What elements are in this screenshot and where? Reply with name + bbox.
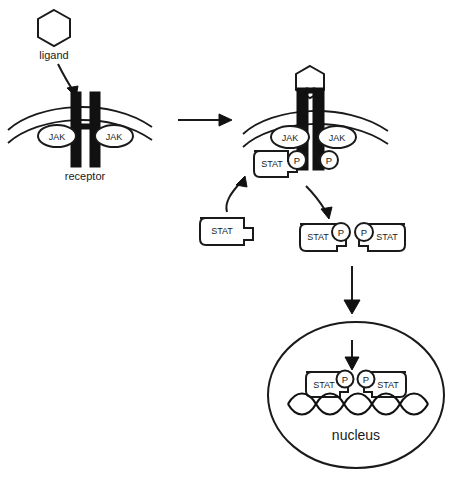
- phosphate-label: P: [326, 155, 332, 166]
- phosphate-dimer-right: P: [355, 223, 373, 241]
- ligand-hexagon: [38, 10, 70, 46]
- phosphate-nuclear-right: P: [358, 371, 375, 388]
- jak-right-1: JAK: [271, 126, 309, 148]
- phosphate-label: P: [361, 227, 367, 238]
- stat-label: STAT: [313, 380, 335, 390]
- jak-left-2: JAK: [95, 125, 133, 147]
- phosphate-dimer-left: P: [332, 223, 350, 241]
- jak-right-2: JAK: [318, 126, 356, 148]
- stat-label: STAT: [261, 159, 283, 169]
- phosphate-receptor-right: P: [320, 151, 338, 169]
- stat-label: STAT: [376, 232, 398, 242]
- nuclear-translocation-arrow: [344, 266, 360, 314]
- jak-label: JAK: [282, 133, 299, 143]
- stat-dimer: STAT STAT P P: [300, 223, 405, 251]
- phosphate-label: P: [363, 374, 369, 385]
- receptor-label: receptor: [65, 170, 106, 182]
- transition-arrow: [178, 114, 232, 126]
- stat-label: STAT: [307, 232, 329, 242]
- phosphate-label: P: [338, 227, 344, 238]
- jak-label: JAK: [106, 132, 123, 142]
- stat-recruitment-arrow: [226, 176, 247, 212]
- stat-label: STAT: [211, 226, 233, 236]
- free-stat: STAT: [200, 218, 253, 245]
- phosphate-label: P: [294, 155, 300, 166]
- jak-label: JAK: [329, 133, 346, 143]
- nucleus-label: nucleus: [332, 427, 380, 443]
- phosphate-receptor-left: P: [288, 151, 306, 169]
- stat-label: STAT: [377, 380, 399, 390]
- jak-left-1: JAK: [38, 125, 76, 147]
- phosphate-label: P: [342, 374, 348, 385]
- diagram-canvas: ligand JAK JAK receptor: [0, 0, 456, 482]
- receptor-left: [71, 92, 100, 167]
- jak-label: JAK: [49, 132, 66, 142]
- stat-release-arrow: [306, 186, 332, 219]
- jak-stat-pathway-diagram: ligand JAK JAK receptor: [0, 0, 456, 482]
- ligand-label: ligand: [39, 49, 68, 61]
- phosphate-nuclear-left: P: [337, 371, 354, 388]
